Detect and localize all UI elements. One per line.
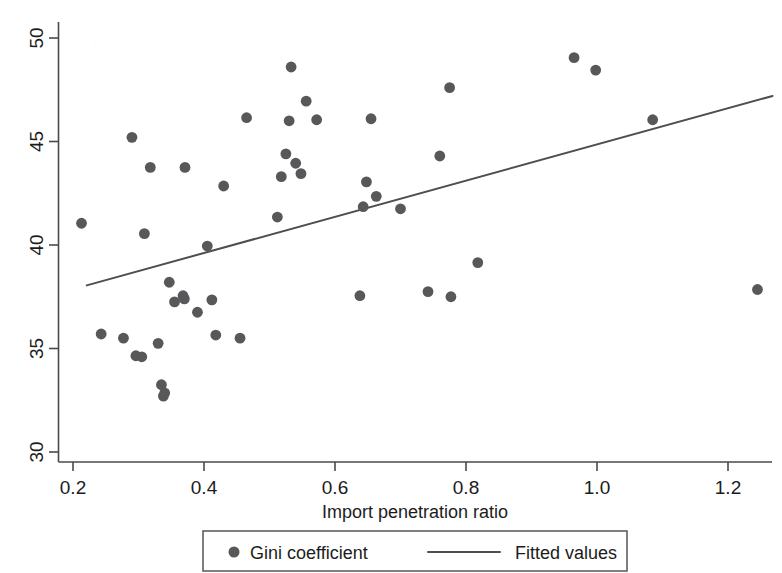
data-point xyxy=(159,388,170,399)
data-point xyxy=(569,52,580,63)
x-tick-label-1.2: 1.2 xyxy=(715,477,741,498)
y-tick-label-50: 50 xyxy=(26,27,47,48)
y-tick-label-30: 30 xyxy=(26,441,47,462)
data-point xyxy=(192,307,203,318)
data-point xyxy=(311,114,322,125)
data-point xyxy=(127,132,138,143)
data-point xyxy=(96,329,107,340)
data-point xyxy=(371,191,382,202)
data-point xyxy=(354,290,365,301)
data-points-group xyxy=(76,52,763,401)
data-point xyxy=(472,257,483,268)
x-tick-label-0.2: 0.2 xyxy=(60,477,86,498)
x-axis-title: Import penetration ratio xyxy=(322,502,508,522)
data-point xyxy=(284,115,295,126)
data-point xyxy=(752,284,763,295)
data-point xyxy=(647,114,658,125)
data-point xyxy=(434,151,445,162)
data-point xyxy=(395,203,406,214)
legend-marker-gini-coefficient xyxy=(229,547,240,558)
data-point xyxy=(301,96,312,107)
data-point xyxy=(286,62,297,73)
chart-canvas: 3035404550 0.20.40.60.81.01.2 Import pen… xyxy=(0,0,782,573)
data-point xyxy=(153,338,164,349)
x-axis-ticks xyxy=(73,462,728,471)
x-axis-tick-labels: 0.20.40.60.81.01.2 xyxy=(60,477,741,498)
data-point xyxy=(76,218,87,229)
data-point xyxy=(179,293,190,304)
data-point xyxy=(590,65,601,76)
y-axis-ticks xyxy=(49,38,59,452)
data-point xyxy=(423,286,434,297)
data-point xyxy=(235,333,246,344)
data-point xyxy=(139,228,150,239)
legend-label-fitted-values: Fitted values xyxy=(515,543,617,563)
data-point xyxy=(272,212,283,223)
data-point xyxy=(358,201,369,212)
data-point xyxy=(290,158,301,169)
data-point xyxy=(118,333,129,344)
y-tick-label-35: 35 xyxy=(26,338,47,359)
chart-legend: Gini coefficient Fitted values xyxy=(203,531,627,571)
y-tick-label-40: 40 xyxy=(26,234,47,255)
y-tick-label-45: 45 xyxy=(26,131,47,152)
data-point xyxy=(444,82,455,93)
fitted-values-line xyxy=(87,96,773,285)
data-point xyxy=(296,168,307,179)
x-tick-label-0.8: 0.8 xyxy=(453,477,479,498)
data-point xyxy=(206,294,217,305)
data-point xyxy=(218,181,229,192)
data-point xyxy=(361,176,372,187)
data-point xyxy=(210,330,221,341)
data-point xyxy=(280,149,291,160)
x-tick-label-0.6: 0.6 xyxy=(322,477,348,498)
data-point xyxy=(164,277,175,288)
data-point xyxy=(366,113,377,124)
data-point xyxy=(180,162,191,173)
x-tick-label-0.4: 0.4 xyxy=(191,477,218,498)
y-axis-tick-labels: 3035404550 xyxy=(26,27,47,462)
data-point xyxy=(145,162,156,173)
scatter-plot-figure: 3035404550 0.20.40.60.81.01.2 Import pen… xyxy=(0,0,782,573)
x-tick-label-1.0: 1.0 xyxy=(584,477,610,498)
data-point xyxy=(136,351,147,362)
data-point xyxy=(202,241,213,252)
data-point xyxy=(241,112,252,123)
data-point xyxy=(276,171,287,182)
legend-label-gini-coefficient: Gini coefficient xyxy=(250,543,368,563)
fitted-line-path xyxy=(87,96,773,285)
data-point xyxy=(446,291,457,302)
